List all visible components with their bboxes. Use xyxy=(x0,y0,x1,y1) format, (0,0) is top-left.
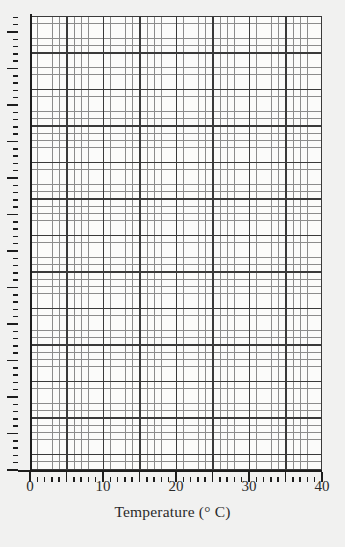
y-tick-minor xyxy=(13,119,18,121)
y-tick-minor xyxy=(13,294,18,296)
major-gridlines xyxy=(30,16,322,470)
y-tick-major xyxy=(7,214,18,216)
y-tick-minor xyxy=(13,170,18,172)
y-tick-minor xyxy=(13,243,18,245)
x-tick-label: 30 xyxy=(242,478,257,495)
y-tick-minor xyxy=(13,345,18,347)
x-axis-title-unit: C xyxy=(215,503,226,520)
y-tick-major xyxy=(7,287,18,289)
y-tick-minor xyxy=(13,338,18,340)
y-tick-minor xyxy=(13,75,18,77)
y-tick-minor xyxy=(13,440,18,442)
y-tick-minor xyxy=(13,82,18,84)
y-tick-minor xyxy=(13,155,18,157)
y-tick-minor xyxy=(13,404,18,406)
y-tick-minor xyxy=(13,17,18,19)
x-tick-label: 0 xyxy=(26,478,34,495)
y-tick-major xyxy=(7,360,18,362)
y-tick-major xyxy=(7,250,18,252)
y-tick-minor xyxy=(13,90,18,92)
minor-gridlines xyxy=(30,16,322,470)
y-tick-minor xyxy=(13,46,18,48)
y-tick-major xyxy=(7,469,18,471)
x-axis-title-close-paren: ) xyxy=(225,503,230,520)
y-tick-minor xyxy=(13,97,18,99)
plot-area xyxy=(30,16,322,470)
x-axis-title-name: Temperature xyxy=(114,503,194,520)
x-axis-tick-labels: 010203040 xyxy=(0,478,345,502)
y-tick-minor xyxy=(13,265,18,267)
y-tick-minor xyxy=(13,279,18,281)
y-tick-minor xyxy=(13,301,18,303)
y-tick-minor xyxy=(13,228,18,230)
y-tick-minor xyxy=(13,221,18,223)
y-tick-minor xyxy=(13,39,18,41)
y-tick-minor xyxy=(13,148,18,150)
y-tick-minor xyxy=(13,455,18,457)
y-tick-minor xyxy=(13,199,18,201)
y-tick-minor xyxy=(13,206,18,208)
y-tick-minor xyxy=(13,126,18,128)
y-tick-major xyxy=(7,323,18,325)
y-tick-minor xyxy=(13,53,18,55)
y-tick-minor xyxy=(13,133,18,135)
y-tick-minor xyxy=(13,382,18,384)
grid-right-edge xyxy=(321,16,322,470)
y-tick-major xyxy=(7,104,18,106)
y-tick-minor xyxy=(13,272,18,274)
y-tick-major xyxy=(7,177,18,179)
x-tick-label: 10 xyxy=(96,478,111,495)
y-axis-ticks xyxy=(0,0,32,547)
y-tick-major xyxy=(7,31,18,33)
x-axis-title: Temperature (° C) xyxy=(0,503,345,521)
y-tick-minor xyxy=(13,60,18,62)
y-tick-major xyxy=(7,396,18,398)
y-tick-minor xyxy=(13,258,18,260)
y-tick-minor xyxy=(13,447,18,449)
y-tick-minor xyxy=(13,374,18,376)
y-tick-minor xyxy=(13,316,18,318)
y-tick-major xyxy=(7,68,18,70)
y-tick-major xyxy=(7,433,18,435)
y-tick-minor xyxy=(13,331,18,333)
x-tick-label: 40 xyxy=(315,478,330,495)
y-tick-minor xyxy=(13,236,18,238)
y-tick-minor xyxy=(13,112,18,114)
y-tick-minor xyxy=(13,352,18,354)
y-tick-minor xyxy=(13,367,18,369)
y-tick-minor xyxy=(13,192,18,194)
y-tick-minor xyxy=(13,309,18,311)
y-tick-minor xyxy=(13,163,18,165)
y-tick-minor xyxy=(13,411,18,413)
x-tick-label: 20 xyxy=(169,478,184,495)
y-tick-minor xyxy=(13,462,18,464)
y-tick-minor xyxy=(13,418,18,420)
y-tick-minor xyxy=(13,185,18,187)
y-tick-minor xyxy=(13,389,18,391)
chart-figure: 010203040 Temperature (° C) xyxy=(0,0,345,547)
y-tick-major xyxy=(7,141,18,143)
y-tick-minor xyxy=(13,425,18,427)
y-tick-minor xyxy=(13,24,18,26)
